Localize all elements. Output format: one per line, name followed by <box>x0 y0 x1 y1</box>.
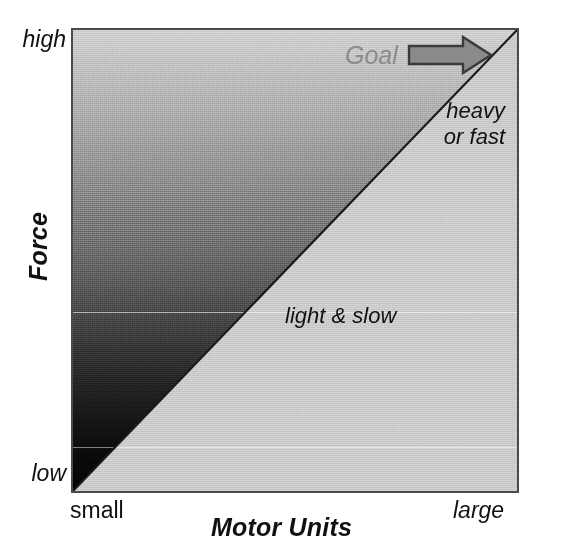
gridline-lower <box>73 447 517 448</box>
heavy-or-fast-line-1: heavy <box>444 98 505 124</box>
heavy-or-fast-line-2: or fast <box>444 124 505 150</box>
heavy-or-fast-annotation: heavy or fast <box>444 98 505 150</box>
plot-area: Goal heavy or fast light & slow <box>71 28 519 493</box>
goal-label: Goal <box>345 43 398 68</box>
x-axis-tick-large: large <box>453 499 504 522</box>
light-and-slow-annotation: light & slow <box>285 305 396 327</box>
y-axis-title: Force <box>24 187 53 307</box>
y-axis-tick-high: high <box>23 28 66 51</box>
y-axis-tick-low: low <box>31 462 66 485</box>
goal-annotation: Goal <box>345 35 493 75</box>
x-axis-tick-small: small <box>70 499 124 522</box>
arrow-right-icon <box>407 35 493 75</box>
figure-container: Goal heavy or fast light & slow Force Mo… <box>0 0 563 554</box>
